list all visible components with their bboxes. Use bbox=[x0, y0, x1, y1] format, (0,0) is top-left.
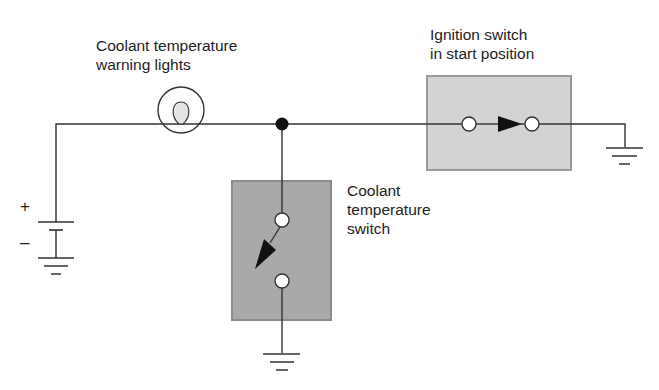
battery-icon bbox=[38, 222, 74, 230]
ignition-switch-label-line2: in start position bbox=[430, 44, 534, 63]
warning-light-label: Coolant temperature warning lights bbox=[96, 36, 237, 74]
coolant-switch-label-line1: Coolant bbox=[347, 181, 431, 200]
wire-left bbox=[56, 124, 158, 222]
warning-light-label-line1: Coolant temperature bbox=[96, 36, 237, 55]
ground-icon bbox=[606, 148, 643, 164]
ground-icon bbox=[38, 258, 74, 274]
coolant-switch-label: Coolant temperature switch bbox=[347, 181, 431, 238]
junction-dot-icon bbox=[276, 118, 289, 131]
lamp-icon bbox=[158, 87, 204, 133]
switch-closed-icon bbox=[462, 116, 539, 132]
ignition-switch-label-line1: Ignition switch bbox=[430, 25, 534, 44]
ground-icon bbox=[263, 354, 300, 370]
coolant-switch-label-line3: switch bbox=[347, 219, 431, 238]
warning-light-label-line2: warning lights bbox=[96, 55, 237, 74]
battery-negative-label: – bbox=[20, 234, 29, 251]
coolant-switch-label-line2: temperature bbox=[347, 200, 431, 219]
ignition-switch-label: Ignition switch in start position bbox=[430, 25, 534, 63]
battery-positive-label: + bbox=[20, 198, 30, 215]
